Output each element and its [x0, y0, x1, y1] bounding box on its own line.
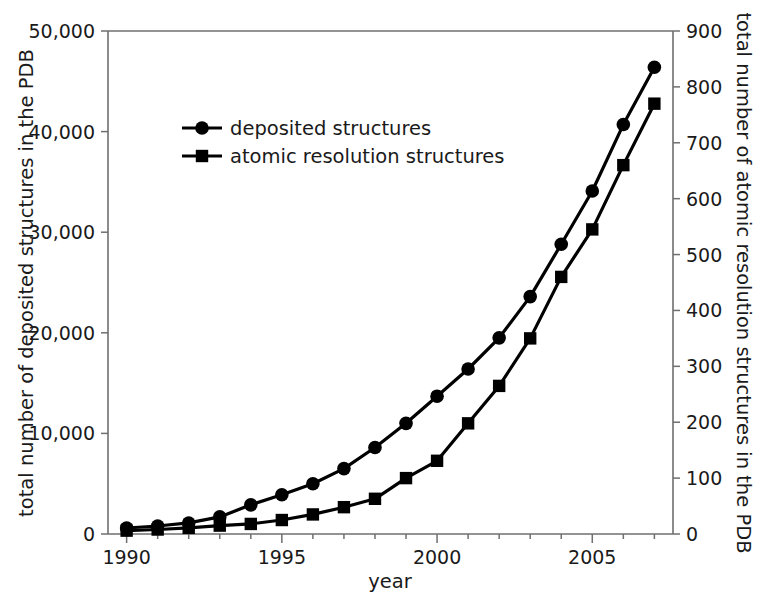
left-tick-label: 10,000 — [29, 422, 95, 444]
left-tick-label: 50,000 — [29, 20, 95, 42]
right-axis-ticks: 0100200300400500600700800900 — [673, 20, 722, 545]
right-tick-label: 200 — [686, 411, 722, 433]
data-point-square — [648, 97, 660, 109]
data-point-square — [307, 508, 319, 520]
legend-label: deposited structures — [230, 117, 431, 140]
x-tick-label: 1995 — [258, 546, 306, 568]
data-point-square — [555, 271, 567, 283]
data-point-square — [183, 522, 195, 534]
legend-item[interactable]: deposited structures — [182, 117, 431, 140]
plot-frame — [108, 31, 673, 534]
data-point-square — [369, 493, 381, 505]
right-tick-label: 500 — [686, 244, 722, 266]
data-point-square — [400, 472, 412, 484]
data-point-square — [431, 455, 443, 467]
chart-figure: 010,00020,00030,00040,00050,000 01002003… — [0, 0, 761, 597]
data-point-circle — [275, 488, 289, 502]
data-point-square — [151, 523, 163, 535]
data-point-square — [338, 501, 350, 513]
right-tick-label: 700 — [686, 132, 722, 154]
data-point-circle — [523, 290, 537, 304]
data-point-square — [120, 524, 132, 536]
data-point-square — [462, 417, 474, 429]
x-tick-label: 2000 — [413, 546, 461, 568]
left-axis-ticks: 010,00020,00030,00040,00050,000 — [29, 20, 108, 545]
right-axis-title: total number of atomic resolution struct… — [732, 12, 755, 553]
data-point-circle — [337, 462, 351, 476]
legend-item[interactable]: atomic resolution structures — [182, 145, 505, 168]
right-tick-label: 100 — [686, 467, 722, 489]
data-point-circle — [617, 118, 631, 132]
x-tick-label: 1990 — [102, 546, 150, 568]
right-tick-label: 600 — [686, 188, 722, 210]
right-tick-label: 800 — [686, 76, 722, 98]
data-point-circle — [554, 237, 568, 251]
pdb-growth-line-chart: 010,00020,00030,00040,00050,000 01002003… — [0, 0, 761, 597]
data-point-square — [586, 223, 598, 235]
right-tick-label: 0 — [686, 523, 698, 545]
chart-legend: deposited structuresatomic resolution st… — [182, 117, 505, 168]
left-axis-title: total number of deposited structures in … — [15, 49, 38, 517]
data-point-square — [276, 514, 288, 526]
data-point-circle — [244, 498, 258, 512]
legend-label: atomic resolution structures — [230, 145, 505, 168]
bottom-axis-title: year — [368, 570, 412, 593]
right-tick-label: 900 — [686, 20, 722, 42]
bottom-axis-ticks: 1990199520002005 — [102, 534, 654, 568]
data-point-circle — [430, 389, 444, 403]
data-point-square — [214, 519, 226, 531]
data-point-circle — [492, 331, 506, 345]
data-point-circle — [648, 60, 662, 74]
data-point-square — [524, 332, 536, 344]
x-tick-label: 2005 — [568, 546, 616, 568]
right-tick-label: 300 — [686, 355, 722, 377]
data-point-circle — [399, 417, 413, 431]
data-point-circle — [461, 362, 475, 376]
data-point-square — [493, 380, 505, 392]
left-tick-label: 0 — [83, 523, 95, 545]
data-point-circle — [585, 184, 599, 198]
right-tick-label: 400 — [686, 299, 722, 321]
data-point-square — [617, 159, 629, 171]
legend-marker-circle — [195, 121, 209, 135]
data-point-square — [245, 518, 257, 530]
left-tick-label: 40,000 — [29, 121, 95, 143]
left-tick-label: 20,000 — [29, 322, 95, 344]
data-point-circle — [306, 477, 320, 491]
left-tick-label: 30,000 — [29, 221, 95, 243]
data-point-circle — [368, 441, 382, 455]
legend-marker-square — [196, 150, 208, 162]
